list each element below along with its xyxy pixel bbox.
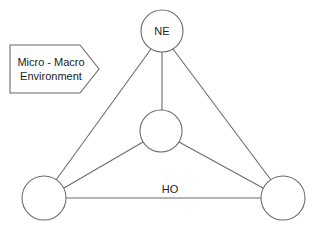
node-center-circle (140, 110, 182, 152)
node-bottom-right (261, 176, 305, 220)
node-bottom-left (22, 176, 66, 220)
edge-center-bottom-right (179, 142, 263, 188)
node-bottom-right-circle (261, 176, 305, 220)
node-bottom-left-circle (22, 176, 66, 220)
edge-top-bottom-right (173, 49, 271, 180)
node-center (140, 110, 182, 152)
node-top-label: NE (154, 25, 169, 37)
callout-line-2: Environment (20, 70, 82, 82)
callout-micro-macro-environment: Micro - Macro Environment (10, 45, 99, 93)
callout-line-1: Micro - Macro (17, 56, 84, 68)
node-top: NE (141, 10, 183, 52)
pentagon-arrow-shape (10, 45, 99, 93)
edge-center-bottom-left (64, 142, 143, 188)
edge-label-ho: HO (162, 183, 179, 195)
network-diagram: HO Micro - Macro Environment NE (0, 0, 316, 233)
